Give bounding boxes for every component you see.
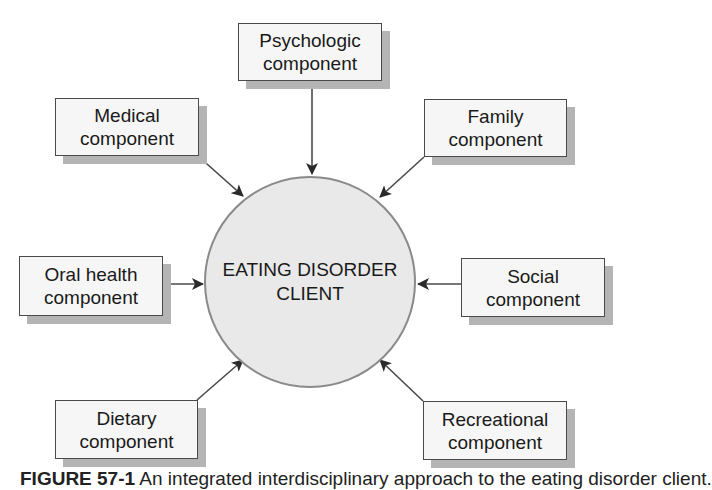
node-social-component: Social component xyxy=(461,258,605,317)
node-label-line1: Psychologic xyxy=(259,29,360,52)
node-label-line1: Medical xyxy=(94,104,159,127)
node-psychologic-component: Psychologic component xyxy=(238,23,382,81)
node-oral-health-component: Oral health component xyxy=(19,256,163,316)
center-label-line1: EATING DISORDER xyxy=(223,258,398,282)
node-label-line1: Dietary xyxy=(96,407,156,430)
node-recreational-component: Recreational component xyxy=(423,401,567,460)
node-family-component: Family component xyxy=(424,99,567,157)
node-label-line2: component xyxy=(80,127,174,150)
node-label-line1: Recreational xyxy=(442,408,549,431)
node-label-line2: component xyxy=(486,288,580,311)
node-label-line1: Oral health xyxy=(45,263,138,286)
figure-caption-text: An integrated interdisciplinary approach… xyxy=(139,468,711,489)
figure-label: FIGURE 57-1 xyxy=(20,468,135,489)
node-label-line1: Family xyxy=(468,105,524,128)
arrow-dietary xyxy=(197,360,243,400)
node-label-line1: Social xyxy=(507,265,559,288)
node-medical-component: Medical component xyxy=(55,98,199,156)
center-label-line2: CLIENT xyxy=(276,282,344,306)
figure-caption: FIGURE 57-1 An integrated interdisciplin… xyxy=(0,468,652,490)
arrow-family xyxy=(380,157,424,197)
node-label-line2: component xyxy=(448,431,542,454)
arrow-medical xyxy=(198,156,243,196)
node-label-line2: component xyxy=(79,430,173,453)
arrow-recreational xyxy=(380,360,423,401)
node-label-line2: component xyxy=(448,128,542,151)
node-label-line2: component xyxy=(263,52,357,75)
center-node-eating-disorder-client: EATING DISORDER CLIENT xyxy=(204,176,416,388)
node-dietary-component: Dietary component xyxy=(55,400,198,459)
node-label-line2: component xyxy=(44,286,138,309)
